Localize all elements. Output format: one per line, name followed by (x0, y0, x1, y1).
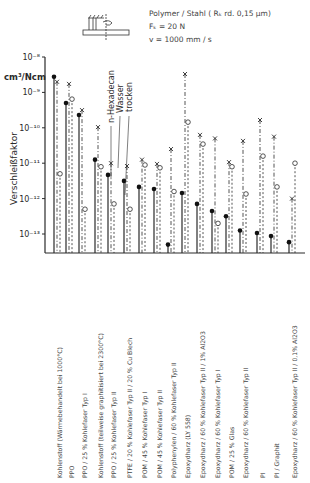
category-label: POM / 45 % Kohlefaser Typ II (156, 390, 164, 478)
trocken-marker (255, 231, 260, 236)
category-label: PI / Graphit (273, 443, 281, 478)
trocken-marker (269, 234, 274, 239)
category-label: Kohlenstoff (Wärmebehandelt bei 1000°C) (56, 347, 63, 478)
legend-trocken: trocken (125, 82, 134, 112)
trocken-marker (152, 187, 157, 192)
y-axis-label: Verschleißfaktor (9, 132, 19, 205)
legend-n-hexadecan: n-Hexadecan (107, 70, 116, 123)
category-label: PTFE / 20 % Kohlefaser Typ II / 20 % Cu … (126, 338, 134, 478)
trocken-marker (238, 228, 243, 233)
hexadecan-marker (293, 161, 298, 166)
category-label: PI (259, 472, 266, 478)
category-label: Epoxydharz / 60 % Kohlefaser Typ II / 1%… (199, 331, 207, 478)
test-apparatus-icon (83, 14, 129, 40)
category-label: Epoxydharz / 60 % Kohlefaser Typ I (214, 369, 222, 478)
data-series (52, 72, 298, 253)
category-label: POM / 45 % Kohlefaser Typ I (141, 391, 149, 478)
y-tick-label: 10⁻¹⁰ (19, 124, 40, 133)
axes (45, 57, 305, 253)
category-label: Kohlenstoff (teilweise graphitisiert bei… (97, 333, 105, 478)
hexadecan-marker (112, 202, 117, 207)
trocken-marker (224, 214, 229, 219)
hexadecan-marker (70, 97, 75, 102)
y-tick-label: 10⁻¹² (19, 195, 40, 204)
category-label: PPO / 25 % Kohlefaser Typ II (110, 391, 118, 478)
category-label: PPO / 25 % Kohlefaser Typ I (81, 393, 89, 478)
hexadecan-marker (58, 172, 63, 177)
y-tick-label: 10⁻⁹ (22, 88, 40, 97)
trocken-marker (93, 157, 98, 162)
trocken-marker (106, 173, 111, 178)
hexadecan-marker (186, 120, 191, 125)
trocken-marker (180, 191, 185, 196)
wear-factor-chart: 10⁻⁸10⁻⁹10⁻¹⁰10⁻¹¹10⁻¹²10⁻¹³ n-Hexadecan… (0, 0, 310, 483)
trocken-marker (166, 242, 171, 247)
hexadecan-marker (216, 221, 221, 226)
hexadecan-marker (83, 207, 88, 212)
y-tick-label: 10⁻⁸ (22, 53, 40, 62)
category-label: Polyphenylen / 60 % Kohlefaser Typ II (170, 362, 178, 478)
hexadecan-marker (172, 189, 177, 194)
hexadecan-marker (230, 164, 235, 169)
y-tick-label: 10⁻¹³ (19, 230, 40, 239)
legend-wasser: Wasser (116, 83, 125, 113)
trocken-marker (64, 101, 69, 106)
category-label: Epoxydharz (LY 558) (184, 415, 192, 478)
x-axis-category-labels: Kohlenstoff (Wärmebehandelt bei 1000°C)P… (56, 325, 299, 478)
y-tick-label: 10⁻¹¹ (19, 159, 40, 168)
hexadecan-marker (261, 154, 266, 159)
legend-annotations: n-HexadecanWassertrocken (107, 70, 134, 195)
hexadecan-marker (99, 164, 104, 169)
category-label: Epoxydharz / 60 % Kohlefaser Typ II (242, 367, 250, 478)
hexadecan-marker (158, 166, 163, 171)
y-axis-unit: cm³/Ncm (4, 72, 46, 82)
hexadecan-marker (143, 163, 148, 168)
trocken-marker (137, 185, 142, 190)
hexadecan-marker (275, 185, 280, 190)
category-label: PPO (68, 466, 75, 478)
trocken-marker (210, 209, 215, 214)
category-label: POM / 25 % Glas (228, 427, 235, 478)
hexadecan-marker (201, 142, 206, 147)
category-label: Epoxydharz / 60 % Kohlefaser Typ II / 0,… (291, 325, 299, 478)
trocken-marker (287, 240, 292, 245)
trocken-marker (77, 113, 82, 118)
trocken-marker (52, 75, 57, 80)
hexadecan-marker (128, 207, 133, 212)
hexadecan-marker (244, 192, 249, 197)
trocken-marker (195, 202, 200, 207)
